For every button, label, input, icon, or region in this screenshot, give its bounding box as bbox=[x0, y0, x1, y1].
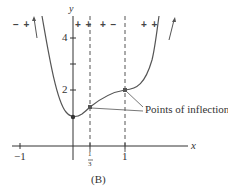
y-axis-label: y bbox=[69, 4, 73, 14]
inflection-point-1 bbox=[88, 105, 92, 109]
fraction-numerator: 1 bbox=[88, 151, 92, 158]
x-axis-label: x bbox=[191, 140, 196, 151]
arrowhead-left-icon bbox=[32, 16, 36, 21]
sign-region-1: − + bbox=[13, 20, 30, 30]
sign-region-4: + + bbox=[141, 20, 158, 30]
inflection-annotation: Points of inflection bbox=[145, 104, 228, 115]
figure-caption: (B) bbox=[91, 174, 106, 185]
fraction-denominator: 3 bbox=[88, 161, 92, 168]
function-curve bbox=[42, 16, 159, 116]
sign-region-3: + − bbox=[100, 20, 117, 30]
x-tick-label-neg1: −1 bbox=[14, 151, 26, 162]
annotation-line-1 bbox=[91, 108, 143, 111]
minimum-point bbox=[71, 115, 75, 119]
y-tick-label-4: 4 bbox=[62, 32, 68, 43]
sign-region-2: + + bbox=[75, 20, 92, 30]
arrow-right-up-icon bbox=[169, 20, 174, 40]
y-tick-label-2: 2 bbox=[62, 84, 68, 95]
annotation-line-2 bbox=[126, 91, 143, 107]
arrowhead-right-icon bbox=[172, 17, 176, 22]
x-tick-label-1: 1 bbox=[122, 151, 128, 162]
inflection-point-2 bbox=[123, 88, 127, 92]
